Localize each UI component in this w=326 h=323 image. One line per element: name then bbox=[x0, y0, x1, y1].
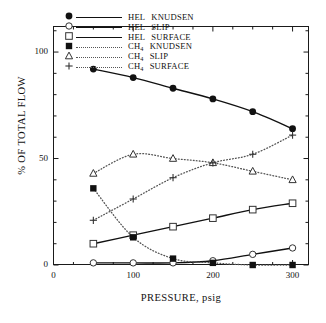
series-ch4-knudsen bbox=[90, 185, 296, 268]
legend-label: HELKNUDSEN bbox=[128, 12, 194, 22]
legend-line-sample bbox=[76, 42, 122, 52]
x-axis-title: PRESSURE, psig bbox=[53, 292, 309, 303]
legend-label: HELSLIP bbox=[128, 22, 170, 32]
legend-marker-plus-icon bbox=[62, 61, 75, 73]
legend-label: CH4SURFACE bbox=[128, 61, 189, 74]
legend-item: CH4SURFACE bbox=[62, 62, 194, 72]
legend-line-sample bbox=[76, 12, 122, 22]
legend-item: HELKNUDSEN bbox=[62, 12, 194, 22]
legend-item: HELSLIP bbox=[62, 22, 194, 32]
series-hel-knudsen bbox=[90, 66, 296, 132]
series-ch4-slip bbox=[90, 150, 296, 182]
y-axis-title: % OF TOTAL FLOW bbox=[16, 56, 27, 196]
x-tick-label: 200 bbox=[198, 270, 228, 280]
legend-line-sample bbox=[76, 22, 122, 32]
x-tick-label: 100 bbox=[118, 270, 148, 280]
chart-legend: HELKNUDSENHELSLIPHELSURFACECH4KNUDSENCH4… bbox=[62, 12, 194, 73]
x-tick-label: 300 bbox=[278, 270, 308, 280]
legend-line-sample bbox=[76, 63, 122, 73]
chart-figure: 050100 0100200300 % OF TOTAL FLOW PRESSU… bbox=[0, 0, 326, 323]
data-series-layer bbox=[90, 66, 296, 269]
series-ch4-surface bbox=[90, 132, 296, 224]
x-tick-label: 0 bbox=[39, 270, 69, 280]
legend-line-sample bbox=[76, 32, 122, 42]
y-tick-label: 0 bbox=[22, 259, 48, 269]
legend-line-sample bbox=[76, 52, 122, 62]
